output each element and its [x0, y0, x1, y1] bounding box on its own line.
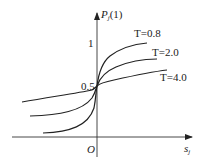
- x-axis-label: sj: [184, 142, 190, 156]
- y-tick-1: 1: [88, 37, 94, 49]
- curve-label-t-4-0: T=4.0: [160, 71, 187, 83]
- origin-label: O: [87, 143, 95, 155]
- curve-label-t-2-0: T=2.0: [152, 46, 179, 58]
- curve-label-t-0-8: T=0.8: [134, 27, 161, 39]
- y-tick-0-5: 0.5: [81, 80, 95, 92]
- y-axis-label: Pj(1): [100, 8, 123, 22]
- sigmoid-chart: Pj(1) 1 0.5 O sj T=0.8 T=2.0 T=4.0: [0, 0, 200, 166]
